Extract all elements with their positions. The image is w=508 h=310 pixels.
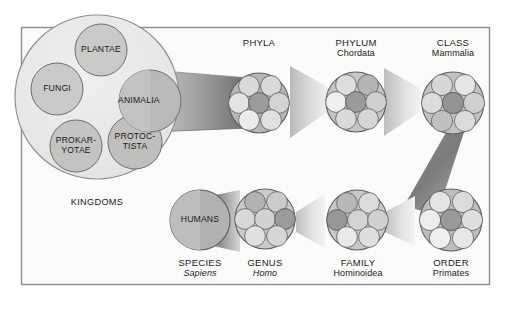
cluster-phylum[interactable] <box>326 72 387 132</box>
kingdom-circle-fungi[interactable] <box>31 63 83 115</box>
cluster-family[interactable] <box>327 190 389 250</box>
cluster-genus[interactable] <box>235 189 296 249</box>
diagram-canvas: PLANTAE FUNGI ANIMALIA PROKAR- YOTAE PRO… <box>0 0 508 310</box>
taxonomy-diagram-svg <box>0 0 508 310</box>
cluster-phyla[interactable] <box>229 73 290 133</box>
cluster-class[interactable] <box>421 72 484 134</box>
cluster-species-humans[interactable] <box>170 190 230 250</box>
kingdom-circle-prokaryotae[interactable] <box>50 120 102 172</box>
kingdom-circle-plantae[interactable] <box>75 24 127 76</box>
cluster-order[interactable] <box>419 189 482 251</box>
